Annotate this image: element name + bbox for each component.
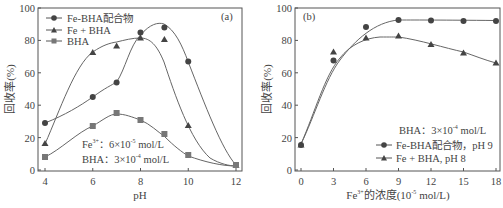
- chart-a-y-label: 回收率(%): [3, 64, 17, 114]
- chart-a-x-label: pH: [133, 189, 147, 201]
- chart-b-xtick-0: 0: [298, 176, 303, 187]
- data-point: [42, 154, 48, 160]
- data-point: [363, 24, 369, 30]
- legend-item-fe-bha-complex-ph9: Fe-BHA配合物，pH 9: [396, 139, 493, 151]
- chart-b-ytick-80: 80: [282, 35, 293, 46]
- condition-bha: BHA：3×10-4 mol/L: [82, 153, 169, 165]
- chart-b-x-label: Fe3+的浓度(10-5 mol/L): [346, 188, 450, 202]
- chart-b-y-axis: 0 20 40 60 80 100 回收率(%): [260, 3, 298, 176]
- data-point: [330, 49, 337, 55]
- chart-a-ytick-80: 80: [25, 35, 36, 46]
- data-point: [461, 18, 467, 24]
- data-point: [138, 117, 144, 123]
- data-point: [42, 140, 49, 146]
- chart-b-y-label: 回收率(%): [260, 64, 274, 114]
- chart-b-xtick-3: 3: [331, 176, 336, 187]
- chart-a-conditions: Fe3+：6×10-5 mol/L BHA：3×10-4 mol/L: [82, 138, 169, 165]
- data-point: [114, 110, 120, 116]
- data-point: [42, 120, 48, 126]
- data-point: [161, 36, 168, 42]
- chart-a-x-axis: 4 6 8 10 12 pH: [42, 168, 241, 201]
- legend-item-fe-plus-bha-ph8: Fe + BHA, pH 8: [396, 153, 466, 164]
- data-point: [331, 58, 337, 64]
- legend-item-fe-bha-complex: Fe-BHA配合物: [67, 12, 133, 24]
- legend-item-fe-plus-bha: Fe + BHA: [67, 25, 111, 36]
- chart-b-xtick-6: 6: [363, 176, 368, 187]
- chart-b-ytick-0: 0: [287, 165, 292, 176]
- chart-a-xtick-10: 10: [183, 176, 194, 187]
- data-point: [161, 131, 167, 137]
- data-point: [90, 123, 96, 129]
- data-point: [185, 59, 191, 65]
- chart-b-ytick-60: 60: [282, 68, 293, 79]
- chart-a-panel-label: (a): [221, 11, 233, 23]
- chart-b-ytick-100: 100: [276, 3, 292, 14]
- data-point: [428, 18, 434, 24]
- chart-b-conditions: BHA：3×10-4 mol/L: [399, 124, 486, 136]
- chart-b-panel-label: (b): [303, 11, 316, 23]
- condition-fe3: Fe3+：6×10-5 mol/L: [82, 138, 164, 150]
- chart-a-xtick-12: 12: [231, 176, 242, 187]
- chart-a-ytick-100: 100: [19, 3, 35, 14]
- chart-a-ytick-0: 0: [30, 165, 35, 176]
- chart-a-y-axis: 0 20 40 60 80 100 回收率(%): [3, 3, 41, 176]
- chart-b-ytick-40: 40: [282, 100, 293, 111]
- data-point: [395, 33, 402, 39]
- data-point: [396, 17, 402, 23]
- data-point: [493, 18, 499, 24]
- data-point: [161, 25, 167, 31]
- chart-a: 0 20 40 60 80 100 回收率(%) 4 6 8 10 12 pH …: [3, 3, 242, 201]
- chart-b-x-axis: 0 3 6 9 12 15 18 Fe3+的浓度(10-5 mol/L): [298, 168, 501, 202]
- chart-b: 0 20 40 60 80 100 回收率(%) 0 3 6 9 12 15 1…: [260, 3, 501, 202]
- chart-b-xtick-15: 15: [458, 176, 469, 187]
- chart-b-xtick-12: 12: [426, 176, 437, 187]
- figure: 0 20 40 60 80 100 回收率(%) 4 6 8 10 12 pH …: [0, 0, 503, 208]
- chart-a-legend: Fe-BHA配合物 Fe + BHA BHA: [46, 12, 133, 47]
- chart-a-ytick-40: 40: [25, 100, 36, 111]
- legend-item-bha: BHA: [67, 36, 90, 47]
- data-point: [113, 43, 120, 49]
- chart-b-ytick-20: 20: [282, 133, 293, 144]
- condition-bha: BHA：3×10-4 mol/L: [399, 124, 486, 136]
- chart-a-ytick-20: 20: [25, 133, 36, 144]
- chart-a-xtick-8: 8: [138, 176, 143, 187]
- data-point: [114, 80, 120, 86]
- data-point: [233, 162, 239, 168]
- data-point: [185, 152, 191, 158]
- chart-a-xtick-4: 4: [42, 176, 48, 187]
- chart-a-xtick-6: 6: [90, 176, 95, 187]
- chart-b-xtick-9: 9: [396, 176, 401, 187]
- chart-a-ytick-60: 60: [25, 68, 36, 79]
- chart-b-xtick-18: 18: [491, 176, 502, 187]
- data-point: [185, 122, 192, 128]
- data-point: [90, 94, 96, 100]
- chart-b-legend: Fe-BHA配合物，pH 9 Fe + BHA, pH 8: [376, 139, 493, 164]
